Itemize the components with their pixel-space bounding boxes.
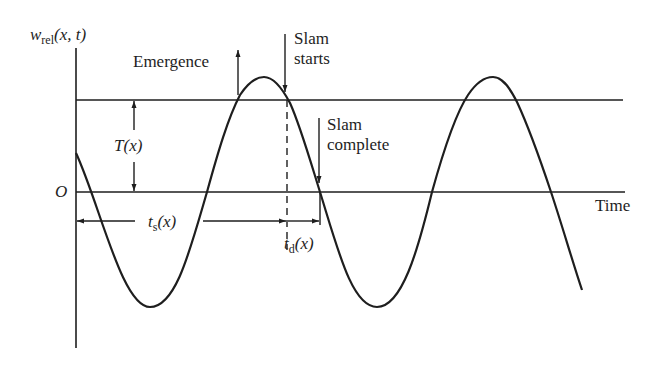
origin-label: O bbox=[55, 182, 67, 201]
slam-complete-label-line2: complete bbox=[327, 135, 389, 154]
time-axis-label: Time bbox=[595, 196, 630, 215]
slam-starts-label-line1: Slam bbox=[294, 29, 329, 48]
draft-label: T(x) bbox=[114, 136, 143, 155]
td-label: td(x) bbox=[284, 234, 314, 256]
slamming-diagram: wrel(x, t) Emergence Slam starts Slam co… bbox=[0, 0, 669, 370]
slam-starts-label-line2: starts bbox=[294, 49, 330, 68]
emergence-label: Emergence bbox=[133, 52, 209, 71]
slam-complete-label-line1: Slam bbox=[327, 115, 362, 134]
ts-label: ts(x) bbox=[148, 212, 177, 234]
y-axis-label: wrel(x, t) bbox=[30, 25, 86, 47]
